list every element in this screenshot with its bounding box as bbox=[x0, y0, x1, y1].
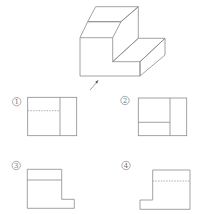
option-1-outline bbox=[28, 97, 77, 135]
option-4-label: 4 bbox=[124, 162, 129, 170]
diagram-canvas: 1 2 3 4 bbox=[0, 0, 199, 214]
tall-right-face bbox=[113, 7, 139, 62]
isometric-block bbox=[80, 7, 165, 76]
option-1[interactable]: 1 bbox=[13, 97, 77, 135]
tall-top-face bbox=[88, 7, 139, 22]
option-2-label: 2 bbox=[123, 97, 127, 105]
edge bbox=[121, 7, 138, 22]
tall-slanted-face bbox=[80, 22, 121, 38]
option-4-outline bbox=[140, 170, 190, 209]
view-direction-arrow bbox=[90, 80, 99, 90]
option-4[interactable]: 4 bbox=[122, 161, 190, 209]
option-2-outline bbox=[138, 98, 186, 136]
option-3-label: 3 bbox=[14, 162, 18, 170]
step-top-face bbox=[113, 38, 165, 61]
arrow-shaft bbox=[90, 82, 97, 90]
step-right-face bbox=[140, 38, 165, 76]
option-2[interactable]: 2 bbox=[121, 96, 187, 135]
option-1-label: 1 bbox=[14, 98, 18, 106]
option-3[interactable]: 3 bbox=[12, 161, 74, 208]
front-face bbox=[80, 38, 140, 76]
option-3-outline bbox=[27, 169, 74, 208]
